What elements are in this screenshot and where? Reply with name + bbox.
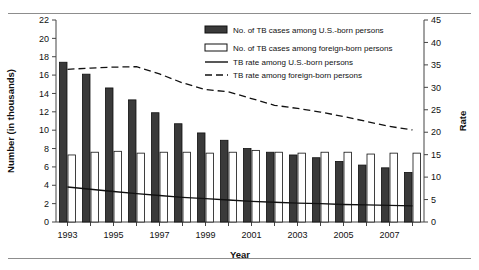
right-tick-label: 0 bbox=[431, 217, 436, 227]
chart-figure: 0246810121416182022 051015202530354045 1… bbox=[0, 0, 479, 270]
bar-foreign-born bbox=[321, 152, 329, 222]
bar-us-born bbox=[266, 152, 274, 222]
legend-label-1: No. of TB cases among foreign-born perso… bbox=[233, 44, 393, 53]
x-tick-label: 2005 bbox=[333, 230, 353, 240]
bar-us-born bbox=[289, 155, 297, 222]
right-tick-label: 20 bbox=[431, 127, 441, 137]
x-axis-ticks: 19931995199719992001200320052007 bbox=[57, 222, 412, 240]
right-tick-label: 25 bbox=[431, 105, 441, 115]
bar-foreign-born bbox=[160, 152, 168, 222]
legend-label-0: No. of TB cases among U.S.-born persons bbox=[233, 26, 384, 35]
x-tick-label: 1997 bbox=[149, 230, 169, 240]
bar-foreign-born bbox=[229, 152, 237, 222]
legend-item-foreign-born-rate: TB rate among foreign-born persons bbox=[205, 71, 362, 80]
bar-us-born bbox=[174, 124, 182, 222]
legend-item-us-born-cases: No. of TB cases among U.S.-born persons bbox=[205, 26, 384, 35]
x-tick-label: 1999 bbox=[195, 230, 215, 240]
bar-foreign-born bbox=[390, 153, 398, 222]
tb-cases-and-rates-chart: 0246810121416182022 051015202530354045 1… bbox=[0, 0, 479, 270]
left-tick-label: 0 bbox=[44, 217, 49, 227]
bar-foreign-born bbox=[68, 155, 76, 222]
x-tick-label: 1993 bbox=[57, 230, 77, 240]
bar-foreign-born bbox=[137, 153, 145, 222]
right-tick-label: 45 bbox=[431, 15, 441, 25]
left-tick-label: 16 bbox=[39, 70, 49, 80]
bar-us-born bbox=[404, 172, 412, 222]
bar-us-born bbox=[151, 113, 159, 222]
right-tick-label: 35 bbox=[431, 60, 441, 70]
right-tick-label: 15 bbox=[431, 150, 441, 160]
bar-foreign-born bbox=[206, 153, 214, 222]
bottom-divider-rule bbox=[8, 258, 471, 259]
bar-us-born bbox=[335, 161, 343, 222]
bar-us-born bbox=[312, 158, 320, 222]
bar-foreign-born bbox=[413, 153, 421, 222]
bar-us-born bbox=[82, 74, 90, 222]
right-axis-ticks: 051015202530354045 bbox=[424, 15, 441, 227]
x-tick-label: 2007 bbox=[379, 230, 399, 240]
x-tick-label: 1995 bbox=[103, 230, 123, 240]
left-tick-label: 8 bbox=[44, 144, 49, 154]
bar-foreign-born bbox=[114, 151, 122, 222]
bar-foreign-born bbox=[252, 150, 260, 222]
left-tick-label: 4 bbox=[44, 180, 49, 190]
left-tick-label: 10 bbox=[39, 125, 49, 135]
y-axis-title: Number (in thousands) bbox=[5, 69, 16, 173]
right-tick-label: 30 bbox=[431, 83, 441, 93]
bar-foreign-born bbox=[298, 153, 306, 222]
filled-bar-swatch bbox=[205, 26, 227, 33]
bar-us-born bbox=[358, 165, 366, 222]
left-tick-label: 6 bbox=[44, 162, 49, 172]
bar-us-born bbox=[381, 168, 389, 222]
legend-label-2: TB rate among U.S.-born persons bbox=[233, 58, 353, 67]
bar-us-born bbox=[243, 149, 251, 222]
bar-us-born bbox=[59, 62, 67, 222]
open-bar-swatch bbox=[205, 44, 227, 51]
bar-foreign-born bbox=[344, 152, 352, 222]
x-tick-label: 2001 bbox=[241, 230, 261, 240]
x-tick-label: 2003 bbox=[287, 230, 307, 240]
left-tick-label: 20 bbox=[39, 34, 49, 44]
right-tick-label: 10 bbox=[431, 172, 441, 182]
y2-axis-title: Rate bbox=[457, 111, 468, 132]
bar-us-born bbox=[220, 140, 228, 222]
left-tick-label: 14 bbox=[39, 89, 49, 99]
bar-foreign-born bbox=[183, 152, 191, 222]
left-tick-label: 12 bbox=[39, 107, 49, 117]
bar-us-born bbox=[197, 133, 205, 222]
top-divider-rule bbox=[8, 13, 471, 14]
bar-foreign-born bbox=[367, 154, 375, 222]
left-tick-label: 2 bbox=[44, 199, 49, 209]
left-tick-label: 22 bbox=[39, 15, 49, 25]
bar-us-born bbox=[128, 100, 136, 222]
chart-legend: No. of TB cases among U.S.-born persons … bbox=[205, 26, 393, 80]
bar-us-born bbox=[105, 88, 113, 222]
legend-item-us-born-rate: TB rate among U.S.-born persons bbox=[205, 58, 353, 67]
right-tick-label: 40 bbox=[431, 38, 441, 48]
bar-foreign-born bbox=[91, 152, 99, 222]
legend-item-foreign-born-cases: No. of TB cases among foreign-born perso… bbox=[205, 44, 393, 53]
right-tick-label: 5 bbox=[431, 195, 436, 205]
legend-label-3: TB rate among foreign-born persons bbox=[233, 71, 362, 80]
bar-foreign-born bbox=[275, 152, 283, 222]
left-axis-ticks: 0246810121416182022 bbox=[39, 15, 56, 227]
left-tick-label: 18 bbox=[39, 52, 49, 62]
